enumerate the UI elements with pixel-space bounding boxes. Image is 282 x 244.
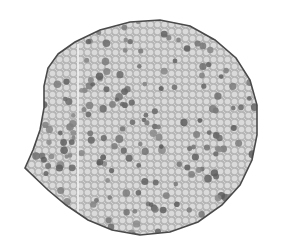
stem-cross-section-image bbox=[0, 0, 282, 244]
